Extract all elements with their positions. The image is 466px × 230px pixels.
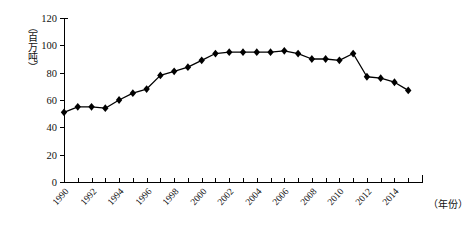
y-tick-label: 120 bbox=[41, 13, 57, 24]
y-tick-label: 100 bbox=[41, 40, 57, 51]
y-tick-label: 20 bbox=[47, 149, 58, 160]
x-tick bbox=[408, 178, 409, 183]
y-tick-label: 60 bbox=[47, 95, 58, 106]
data-point-marker bbox=[226, 48, 232, 56]
y-axis-top-cap bbox=[64, 18, 68, 19]
x-tick bbox=[202, 178, 203, 183]
x-tick bbox=[64, 178, 65, 183]
x-tick bbox=[105, 178, 106, 183]
data-point-marker bbox=[336, 56, 342, 64]
y-axis-line bbox=[64, 18, 65, 183]
x-tick-label: 2014 bbox=[381, 186, 401, 207]
x-tick-label: 2006 bbox=[271, 186, 291, 207]
x-tick bbox=[298, 178, 299, 183]
x-tick bbox=[92, 178, 93, 183]
x-tick bbox=[271, 178, 272, 183]
data-point-marker bbox=[405, 87, 411, 95]
x-tick bbox=[367, 178, 368, 183]
x-tick bbox=[147, 178, 148, 183]
data-point-marker bbox=[130, 89, 136, 97]
data-point-marker bbox=[102, 104, 108, 112]
x-tick-label: 1996 bbox=[133, 186, 153, 207]
data-point-marker bbox=[350, 50, 356, 58]
x-axis-unit-label: （年份） bbox=[428, 196, 466, 211]
x-tick bbox=[215, 178, 216, 183]
data-point-marker bbox=[322, 55, 328, 63]
y-tick bbox=[60, 100, 64, 101]
data-point-marker bbox=[185, 63, 191, 71]
data-point-marker bbox=[116, 96, 122, 104]
data-point-marker bbox=[377, 74, 383, 82]
x-tick-label: 2010 bbox=[326, 186, 346, 207]
y-tick-label: 0 bbox=[52, 177, 57, 188]
y-tick bbox=[60, 45, 64, 46]
x-tick bbox=[243, 178, 244, 183]
x-tick bbox=[78, 178, 79, 183]
data-point-marker bbox=[309, 55, 315, 63]
x-tick-label: 2000 bbox=[188, 186, 208, 207]
x-tick bbox=[394, 178, 395, 183]
y-tick bbox=[60, 18, 64, 19]
data-point-marker bbox=[295, 50, 301, 58]
data-point-marker bbox=[171, 67, 177, 75]
data-point-marker bbox=[364, 73, 370, 81]
x-tick bbox=[257, 178, 258, 183]
series-line bbox=[64, 51, 408, 113]
y-tick bbox=[60, 73, 64, 74]
x-tick bbox=[353, 178, 354, 183]
y-tick-label: 40 bbox=[47, 122, 58, 133]
x-tick-label: 1998 bbox=[161, 186, 181, 207]
data-point-marker bbox=[88, 103, 94, 111]
x-tick-label: 1994 bbox=[106, 186, 126, 207]
x-tick bbox=[174, 178, 175, 183]
y-tick bbox=[60, 155, 64, 156]
data-point-marker bbox=[267, 48, 273, 56]
data-point-marker bbox=[198, 56, 204, 64]
x-tick-label: 1990 bbox=[51, 186, 71, 207]
y-tick bbox=[60, 127, 64, 128]
data-point-marker bbox=[391, 78, 397, 86]
x-tick bbox=[326, 178, 327, 183]
data-point-marker bbox=[75, 103, 81, 111]
data-point-marker bbox=[157, 72, 163, 80]
x-tick bbox=[160, 178, 161, 183]
x-tick bbox=[133, 178, 134, 183]
y-axis-unit-label: （百万吨） bbox=[17, 22, 37, 72]
x-tick bbox=[312, 178, 313, 183]
x-tick bbox=[339, 178, 340, 183]
data-point-marker bbox=[143, 85, 149, 93]
x-tick bbox=[284, 178, 285, 183]
data-point-marker bbox=[212, 50, 218, 58]
x-tick-label: 2008 bbox=[298, 186, 318, 207]
x-tick bbox=[188, 178, 189, 183]
x-tick-label: 1992 bbox=[78, 186, 98, 207]
x-tick-label: 2004 bbox=[243, 186, 263, 207]
data-point-marker bbox=[240, 48, 246, 56]
data-point-marker bbox=[281, 47, 287, 55]
x-tick bbox=[381, 178, 382, 183]
x-axis-right-cap bbox=[422, 175, 423, 183]
x-tick bbox=[229, 178, 230, 183]
x-tick-label: 2012 bbox=[353, 186, 373, 207]
x-tick bbox=[119, 178, 120, 183]
data-point-marker bbox=[254, 48, 260, 56]
y-tick-label: 80 bbox=[47, 67, 58, 78]
x-tick-label: 2002 bbox=[216, 186, 236, 207]
